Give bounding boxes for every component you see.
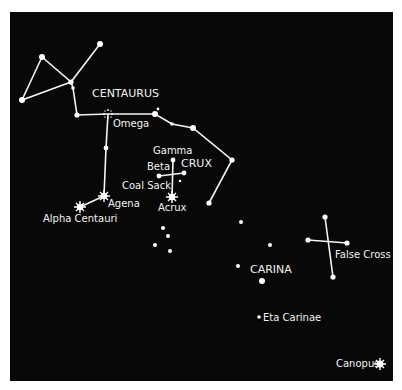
label-coal-sack: Coal Sack	[122, 180, 171, 191]
label-canopus: Canopus	[336, 358, 379, 369]
star-map: CENTAURUS Omega Gamma Beta CRUX Coal Sac…	[0, 0, 402, 390]
label-centaurus: CENTAURUS	[92, 87, 159, 100]
alpha-centauri-star-icon	[74, 201, 86, 213]
label-agena: Agena	[108, 198, 140, 209]
label-alpha-centauri: Alpha Centauri	[43, 213, 117, 224]
label-false-cross: False Cross	[335, 249, 391, 260]
label-crux: CRUX	[181, 157, 212, 170]
label-omega: Omega	[113, 118, 149, 129]
false-cross-lines	[308, 217, 347, 277]
label-gamma: Gamma	[153, 145, 193, 156]
label-carina: CARINA	[250, 263, 292, 276]
label-eta-carinae: Eta Carinae	[263, 312, 321, 323]
label-acrux: Acrux	[158, 202, 187, 213]
stars	[19, 41, 350, 319]
label-beta: Beta	[147, 161, 170, 172]
